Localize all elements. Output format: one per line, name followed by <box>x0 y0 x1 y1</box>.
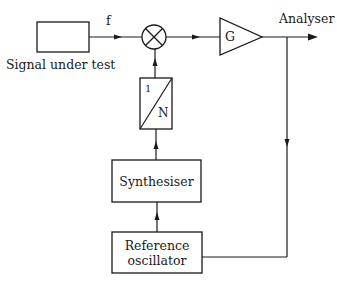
reference-label-line1: Reference <box>125 238 190 253</box>
arrow-up-icon <box>154 141 159 149</box>
arrow-right-icon <box>308 34 318 41</box>
arrow-up-icon <box>153 58 158 66</box>
divider-numerator: 1 <box>145 83 151 94</box>
signal-source-block <box>37 22 89 52</box>
reference-label-line2: oscillator <box>128 253 187 268</box>
mixer-icon <box>142 25 166 49</box>
frequency-label: f <box>106 13 112 28</box>
synthesiser-label: Synthesiser <box>119 174 193 189</box>
divider-denominator: N <box>158 106 169 120</box>
signal-source-label: Signal under test <box>6 57 115 72</box>
amplifier-gain-label: G <box>225 29 235 44</box>
block-diagram: Signal under test f G Analyser 1 N Synth… <box>0 0 337 284</box>
arrow-down-icon <box>285 139 290 147</box>
arrow-up-icon <box>155 212 160 220</box>
analyser-label: Analyser <box>278 11 334 26</box>
arrow-right-icon <box>192 35 200 40</box>
arrow-right-icon <box>114 35 122 40</box>
